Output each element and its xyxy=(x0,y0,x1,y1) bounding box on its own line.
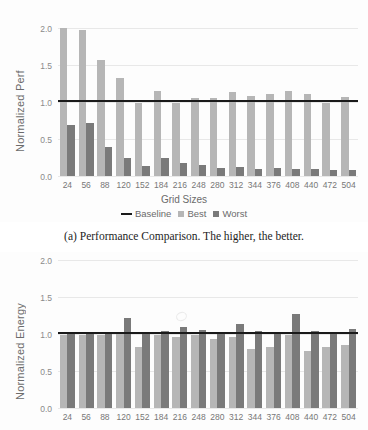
bar-worst xyxy=(105,147,113,176)
bar-best xyxy=(116,334,124,408)
legend-item-worst: Worst xyxy=(213,208,247,219)
x-tick-label: 216 xyxy=(171,180,190,190)
bar-group xyxy=(321,28,340,176)
baseline-line-perf xyxy=(58,100,358,102)
y-tick-1.0: 1.0 xyxy=(28,99,52,107)
bar-group xyxy=(189,28,208,176)
legend-label-worst: Worst xyxy=(222,208,247,219)
bar-group xyxy=(114,260,133,408)
x-axis-ticks-energy: 2456881201521842162482803123443764084404… xyxy=(58,412,358,422)
bar-group xyxy=(227,260,246,408)
bar-group xyxy=(77,28,96,176)
bar-worst xyxy=(274,168,282,176)
gridline-energy-0.0 xyxy=(58,408,358,409)
bar-worst xyxy=(349,329,357,408)
bar-group xyxy=(96,28,115,176)
x-tick-label: 376 xyxy=(264,180,283,190)
bar-worst xyxy=(236,324,244,408)
bar-best xyxy=(229,337,237,408)
bar-group xyxy=(321,260,340,408)
gridline-0.0 xyxy=(58,176,358,177)
bar-group xyxy=(339,260,358,408)
bar-worst xyxy=(292,314,300,408)
bar-group xyxy=(264,28,283,176)
baseline-line-energy xyxy=(58,332,358,334)
x-tick-label: 248 xyxy=(189,180,208,190)
x-tick-label: 504 xyxy=(339,180,358,190)
bar-group xyxy=(208,260,227,408)
bar-best xyxy=(172,337,180,408)
bar-series-perf xyxy=(58,28,358,176)
bar-worst xyxy=(217,332,225,408)
plot-area-energy xyxy=(58,260,358,408)
y-tick-1.5: 1.5 xyxy=(28,62,52,70)
x-tick-label: 376 xyxy=(264,412,283,422)
x-tick-label: 408 xyxy=(283,412,302,422)
bar-best xyxy=(341,97,349,176)
bar-group xyxy=(152,260,171,408)
performance-chart: Normalized Perf 2.0 1.5 1.0 0.5 0.0 2456… xyxy=(0,0,368,222)
bar-best xyxy=(341,345,349,408)
bar-best xyxy=(135,347,143,408)
bar-group xyxy=(283,28,302,176)
y-tick-0.0: 0.0 xyxy=(28,173,52,181)
y-tick-0.5: 0.5 xyxy=(28,136,52,144)
bar-worst xyxy=(255,331,263,408)
x-tick-label: 24 xyxy=(58,180,77,190)
x-tick-label: 312 xyxy=(227,412,246,422)
x-tick-label: 184 xyxy=(152,412,171,422)
x-tick-label: 184 xyxy=(152,180,171,190)
y-tick-energy-1.5: 1.5 xyxy=(28,294,52,302)
bar-worst xyxy=(180,163,188,176)
x-tick-label: 120 xyxy=(114,180,133,190)
x-tick-label: 440 xyxy=(302,180,321,190)
bar-group xyxy=(189,260,208,408)
y-tick-energy-0.5: 0.5 xyxy=(28,368,52,376)
x-tick-label: 280 xyxy=(208,412,227,422)
bar-worst xyxy=(199,165,207,176)
legend-label-baseline: Baseline xyxy=(135,208,171,219)
bar-best xyxy=(247,349,255,408)
bar-group xyxy=(114,28,133,176)
x-axis-label-perf: Grid Sizes xyxy=(0,194,368,205)
x-tick-label: 472 xyxy=(321,180,340,190)
bar-best xyxy=(79,30,87,176)
bar-worst xyxy=(311,331,319,408)
bar-worst xyxy=(105,333,113,408)
bar-worst xyxy=(124,158,132,176)
legend-perf: Baseline Best Worst xyxy=(0,208,368,219)
bar-best xyxy=(172,103,180,176)
bar-group xyxy=(302,28,321,176)
bar-best xyxy=(322,347,330,408)
bar-worst xyxy=(180,327,188,408)
y-axis-label-perf: Normalized Perf xyxy=(14,42,26,152)
bar-best xyxy=(285,335,293,408)
bar-best xyxy=(97,60,105,176)
bar-best xyxy=(60,335,68,408)
bar-best xyxy=(191,98,199,176)
bar-best xyxy=(266,347,274,408)
baseline-line-icon xyxy=(121,213,132,215)
bar-worst xyxy=(199,330,207,408)
bar-group xyxy=(133,260,152,408)
bar-worst xyxy=(236,167,244,176)
bar-best xyxy=(60,28,68,176)
bar-group xyxy=(96,260,115,408)
legend-item-baseline: Baseline xyxy=(121,208,171,219)
bar-best xyxy=(154,91,162,176)
bar-group xyxy=(152,28,171,176)
bar-worst xyxy=(255,169,263,176)
bar-worst xyxy=(67,333,75,408)
bar-worst xyxy=(161,331,169,408)
bar-group xyxy=(133,28,152,176)
bar-best xyxy=(229,92,237,176)
bar-worst xyxy=(161,158,169,176)
figure-caption-a: (a) Performance Comparison. The higher, … xyxy=(0,230,368,242)
bar-worst xyxy=(311,169,319,176)
y-tick-energy-1.0: 1.0 xyxy=(28,331,52,339)
x-tick-label: 24 xyxy=(58,412,77,422)
y-axis-label-energy: Normalized Energy xyxy=(14,280,26,400)
x-tick-label: 408 xyxy=(283,180,302,190)
bar-best xyxy=(154,335,162,408)
bar-best xyxy=(304,94,312,176)
